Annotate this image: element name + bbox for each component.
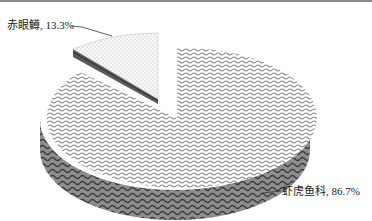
data-label-small: 赤眼鳟, 13.3%	[7, 19, 74, 31]
leader-line-small	[71, 26, 112, 36]
data-label-large: 虾虎鱼科, 86.7%	[282, 185, 360, 197]
slice-large-top[interactable]	[47, 48, 317, 188]
